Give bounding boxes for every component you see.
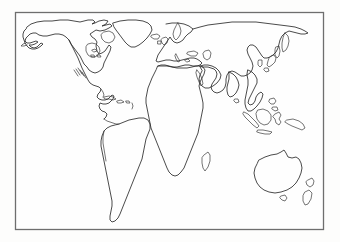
- world-outline-map-figure: World Outline Map Black and white outlin…: [0, 0, 340, 242]
- map-border-frame: [16, 13, 324, 230]
- world-map-svg: [0, 0, 340, 242]
